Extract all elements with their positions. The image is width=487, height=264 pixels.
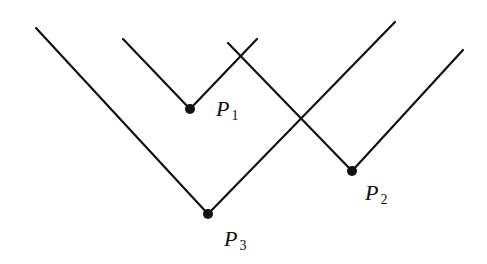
point-dot-p2: [347, 166, 357, 176]
v-shapes-diagram: [0, 0, 487, 264]
point-dot-p3: [203, 209, 213, 219]
label-p1: P1: [216, 96, 238, 124]
label-p2: P2: [365, 180, 387, 208]
v-shape-p2: [228, 43, 463, 171]
point-dot-p1: [185, 104, 195, 114]
label-p3: P3: [224, 226, 246, 254]
